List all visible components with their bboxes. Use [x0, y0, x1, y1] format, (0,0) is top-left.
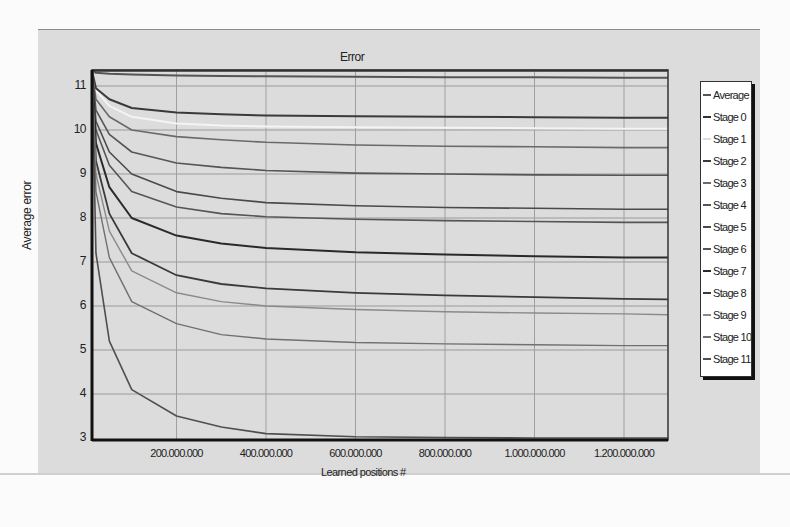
- legend-label: Stage 1: [713, 133, 746, 145]
- legend-swatch-icon: [703, 336, 711, 338]
- legend-item: Stage 6: [703, 240, 746, 258]
- legend-item: Stage 1: [703, 130, 746, 148]
- legend-item: Stage 10: [703, 328, 751, 346]
- legend-swatch-icon: [703, 116, 711, 118]
- series-line: [92, 71, 668, 315]
- y-tick-label: 10: [66, 122, 86, 136]
- legend-swatch-icon: [703, 358, 711, 360]
- x-tick-label: 400.000.000: [240, 447, 292, 459]
- x-tick-label: 200.000.000: [150, 447, 202, 459]
- legend-swatch-icon: [703, 292, 711, 294]
- legend-swatch-icon: [703, 270, 711, 272]
- legend-item: Average: [703, 86, 749, 104]
- series-line: [92, 71, 668, 210]
- legend-label: Stage 3: [713, 177, 746, 189]
- legend-label: Stage 11: [713, 353, 751, 365]
- legend-item: Stage 9: [703, 306, 746, 324]
- legend-swatch-icon: [703, 160, 711, 162]
- legend-item: Stage 5: [703, 218, 746, 236]
- y-tick-label: 8: [66, 210, 86, 224]
- legend-label: Stage 5: [713, 221, 746, 233]
- y-tick-label: 9: [66, 166, 86, 180]
- y-tick-label: 3: [66, 430, 86, 444]
- series-line: [92, 71, 668, 258]
- legend-item: Stage 2: [703, 152, 746, 170]
- legend-swatch-icon: [703, 314, 711, 316]
- x-tick-label: 1.000.000.000: [505, 447, 565, 459]
- legend-label: Stage 4: [713, 199, 746, 211]
- series-line: [92, 71, 668, 148]
- legend-item: Stage 7: [703, 262, 746, 280]
- legend-swatch-icon: [703, 138, 711, 140]
- legend-swatch-icon: [703, 226, 711, 228]
- legend-swatch-icon: [703, 182, 711, 184]
- legend-label: Average: [713, 89, 749, 101]
- legend-label: Stage 0: [713, 111, 746, 123]
- legend-label: Stage 8: [713, 287, 746, 299]
- y-tick-label: 6: [66, 298, 86, 312]
- plot-area: [0, 0, 790, 527]
- legend-label: Stage 6: [713, 243, 746, 255]
- data-series: [92, 71, 668, 438]
- legend-item: Stage 0: [703, 108, 746, 126]
- y-tick-label: 4: [66, 386, 86, 400]
- legend-item: Stage 11: [703, 350, 751, 368]
- legend-label: Stage 7: [713, 265, 746, 277]
- legend-item: Stage 3: [703, 174, 746, 192]
- legend-label: Stage 10: [713, 331, 751, 343]
- series-line: [92, 71, 668, 300]
- legend: AverageStage 0Stage 1Stage 2Stage 3Stage…: [700, 81, 752, 377]
- legend-label: Stage 9: [713, 309, 746, 321]
- gridlines: [92, 70, 668, 440]
- y-tick-label: 5: [66, 342, 86, 356]
- plot-border: [92, 70, 668, 440]
- x-tick-label: 600.000.000: [329, 447, 381, 459]
- x-tick-label: 800.000.000: [419, 447, 471, 459]
- legend-swatch-icon: [703, 248, 711, 250]
- legend-swatch-icon: [703, 204, 711, 206]
- legend-item: Stage 8: [703, 284, 746, 302]
- legend-item: Stage 4: [703, 196, 746, 214]
- series-line: [92, 71, 668, 129]
- y-tick-label: 11: [66, 78, 86, 92]
- series-line: [92, 71, 668, 438]
- legend-label: Stage 2: [713, 155, 746, 167]
- y-tick-label: 7: [66, 254, 86, 268]
- x-tick-label: 1.200.000.000: [594, 447, 654, 459]
- legend-swatch-icon: [703, 94, 711, 96]
